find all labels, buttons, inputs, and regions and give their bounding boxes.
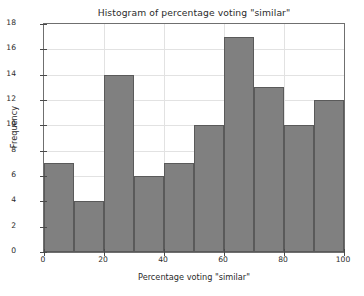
histogram-bar: [44, 163, 74, 252]
y-axis-tick-inner: [44, 227, 47, 228]
histogram-bar: [74, 201, 104, 252]
x-axis-tick-inner: [164, 249, 165, 252]
plot-area: [43, 23, 345, 253]
gridline-horizontal: [44, 49, 344, 50]
y-axis-tick-inner: [44, 125, 47, 126]
x-axis-tick-label: 0: [28, 256, 58, 264]
x-axis-tick-label: 40: [148, 256, 178, 264]
x-axis-tick-inner: [284, 249, 285, 252]
y-axis-tick-label: 16: [0, 44, 16, 52]
y-axis-tick-inner: [44, 49, 47, 50]
y-axis-tick-inner: [44, 100, 47, 101]
y-axis-tick-label: 14: [0, 70, 16, 78]
histogram-bar: [104, 75, 134, 252]
y-axis-title: Frequency: [9, 82, 19, 172]
x-axis-tick-label: 100: [328, 256, 358, 264]
histogram-bar: [314, 100, 344, 252]
plot-inner: [44, 24, 344, 252]
y-axis-tick-inner: [44, 75, 47, 76]
x-axis-tick-label: 20: [88, 256, 118, 264]
gridline-horizontal: [44, 100, 344, 101]
y-axis-tick-inner: [44, 151, 47, 152]
x-axis-tick-label: 80: [268, 256, 298, 264]
histogram-bar: [194, 125, 224, 252]
y-axis-tick-label: 18: [0, 19, 16, 27]
histogram-figure: Histogram of percentage voting "similar"…: [0, 0, 364, 296]
histogram-bar: [224, 37, 254, 252]
x-axis-tick-inner: [44, 249, 45, 252]
y-axis-tick-label: 6: [0, 171, 16, 179]
y-axis-tick-inner: [44, 201, 47, 202]
chart-title: Histogram of percentage voting "similar": [43, 7, 345, 18]
gridline-horizontal: [44, 75, 344, 76]
histogram-bar: [284, 125, 314, 252]
x-axis-tick-label: 60: [208, 256, 238, 264]
x-axis-tick-inner: [104, 249, 105, 252]
y-axis-tick-inner: [44, 176, 47, 177]
histogram-bar: [254, 87, 284, 252]
histogram-bar: [134, 176, 164, 252]
y-axis-tick-inner: [44, 24, 47, 25]
y-axis-tick-label: 4: [0, 196, 16, 204]
x-axis-tick-inner: [224, 249, 225, 252]
x-axis-tick-inner: [344, 249, 345, 252]
y-axis-tick-label: 0: [0, 247, 16, 255]
x-axis-title: Percentage voting "similar": [43, 272, 345, 282]
histogram-bar: [164, 163, 194, 252]
y-axis-tick-label: 2: [0, 222, 16, 230]
